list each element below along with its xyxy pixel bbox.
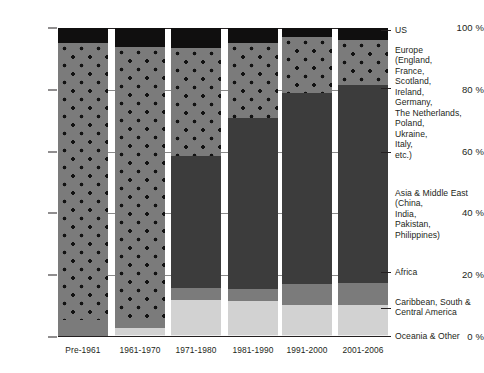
x-axis-tick-2001-2006: 2001-2006 [338, 345, 388, 355]
y-axis-tick-dash-0 [48, 337, 57, 338]
segment-asia [228, 118, 278, 289]
segment-us [171, 28, 221, 48]
legend-entry-africa[interactable]: Africa [395, 267, 483, 277]
legend-entry-europe[interactable]: Europe (England, France, Scotland, Irela… [395, 45, 483, 160]
legend-leader-us [381, 30, 391, 31]
segment-africa [58, 320, 108, 337]
segment-asia [282, 93, 332, 285]
y-axis-tick-dash-80 [48, 89, 57, 90]
segment-africa [228, 289, 278, 301]
x-axis-tick-1981-1990: 1981-1990 [228, 345, 278, 355]
segment-africa [115, 318, 165, 327]
legend-leader-oceania [381, 336, 391, 337]
y-axis-tick-dash-100 [48, 28, 57, 29]
x-axis-tick-1961-1970: 1961-1970 [115, 345, 165, 355]
segment-caribbean [338, 305, 388, 336]
segment-europe [171, 48, 221, 156]
segment-asia [171, 156, 221, 287]
segment-europe [58, 43, 108, 320]
y-axis-tick-dash-20 [48, 275, 57, 276]
bar-1971-1980[interactable] [171, 28, 221, 337]
legend-entry-us[interactable]: US [395, 25, 483, 35]
segment-us [115, 28, 165, 47]
y-axis-tick-dash-40 [48, 213, 57, 214]
legend-leader-africa [381, 272, 391, 273]
segment-africa [171, 288, 221, 300]
bar-1981-1990[interactable] [228, 28, 278, 337]
bar-2001-2006[interactable] [338, 28, 388, 337]
legend-leader-asia [381, 152, 391, 153]
plot-area [58, 28, 388, 337]
x-axis-tick-pre-1961: Pre-1961 [58, 345, 108, 355]
legend-entry-asia[interactable]: Asia & Middle East (China, India, Pakist… [395, 188, 483, 240]
segment-europe [338, 40, 388, 85]
y-axis-tick-dash-60 [48, 151, 57, 152]
segment-caribbean [115, 328, 165, 336]
segment-africa [338, 283, 388, 305]
legend-leader-caribbean [381, 308, 391, 309]
legend-entry-oceania[interactable]: Oceania & Other [395, 331, 483, 341]
segment-europe [282, 37, 332, 93]
x-axis-tick-1971-1980: 1971-1980 [171, 345, 221, 355]
segment-europe [228, 43, 278, 117]
x-axis-baseline [58, 336, 388, 337]
bar-1961-1970[interactable] [115, 28, 165, 337]
segment-caribbean [282, 305, 332, 336]
segment-africa [282, 284, 332, 304]
legend-leader-europe [381, 88, 391, 89]
bar-pre-1961[interactable] [58, 28, 108, 337]
segment-europe [115, 47, 165, 319]
segment-us [228, 28, 278, 43]
segment-caribbean [171, 300, 221, 336]
bar-1991-2000[interactable] [282, 28, 332, 337]
segment-caribbean [228, 301, 278, 335]
stacked-bar-chart: 100 % 80 % 60 % 40 % 20 % 0 % [0, 0, 484, 373]
legend-entry-caribbean[interactable]: Caribbean, South & Central America [395, 297, 483, 318]
segment-us [282, 28, 332, 37]
segment-us [58, 28, 108, 43]
segment-asia [338, 85, 388, 283]
x-axis-tick-1991-2000: 1991-2000 [282, 345, 332, 355]
